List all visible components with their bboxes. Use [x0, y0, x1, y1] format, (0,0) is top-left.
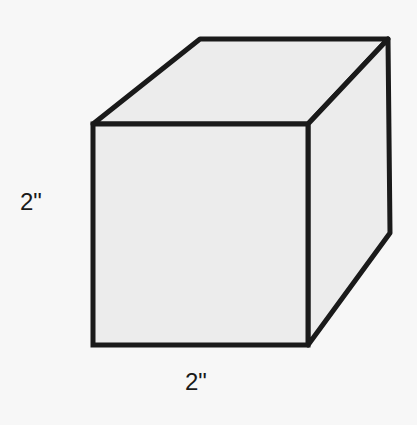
width-label: 2" — [185, 368, 207, 396]
cube-diagram — [0, 0, 417, 425]
cube-front-face — [93, 124, 308, 345]
height-label: 2" — [20, 188, 42, 216]
